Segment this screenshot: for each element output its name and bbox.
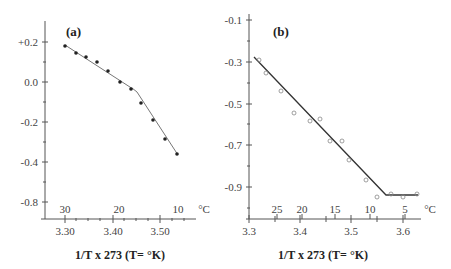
figure: +0.2 0.0 -0.2 -0.4 -0.8 3.30 3.40 3.50 — [0, 0, 451, 269]
y-tick-label: -0.3 — [225, 56, 243, 68]
celsius-unit-label: °C — [424, 203, 436, 215]
celsius-tick-label: 15 — [330, 203, 342, 215]
x-tick-label: 3.3 — [242, 225, 256, 237]
y-tick-label: 0.0 — [24, 76, 38, 88]
panel-a-x-axis — [41, 215, 196, 223]
y-tick-label: -0.1 — [225, 14, 242, 26]
y-tick-label: -0.4 — [21, 156, 39, 168]
x-tick-label: 3.4 — [293, 225, 307, 237]
panel-a-fit-lines — [65, 45, 178, 155]
panel-b: -0.1 -0.3 -0.5 -0.7 -0.9 3.3 3.4 3.5 3.6 — [225, 14, 436, 262]
y-tick-label: -0.8 — [21, 196, 39, 208]
x-tick-label: 3.5 — [344, 225, 358, 237]
celsius-tick-label: 20 — [297, 203, 309, 215]
celsius-tick-label: 5 — [402, 203, 408, 215]
x-tick-label: 3.30 — [55, 225, 75, 237]
panel-b-y-tick-labels: -0.1 -0.3 -0.5 -0.7 -0.9 — [225, 14, 243, 193]
y-tick-label: -0.2 — [21, 116, 38, 128]
panel-a-y-tick-labels: +0.2 0.0 -0.2 -0.4 -0.8 — [18, 36, 38, 208]
celsius-tick-label: 10 — [173, 203, 185, 215]
x-tick-label: 3.40 — [103, 225, 123, 237]
celsius-tick-label: 20 — [114, 203, 126, 215]
x-tick-label: 3.6 — [396, 225, 410, 237]
panel-a-celsius-tick-labels: 30 20 10 °C — [60, 203, 210, 215]
panel-b-x-tick-labels: 3.3 3.4 3.5 3.6 — [242, 225, 410, 237]
celsius-tick-label: 30 — [60, 203, 72, 215]
x-axis-title: 1/T x 273 (T= °K) — [278, 248, 368, 262]
panel-a-data-points — [63, 44, 179, 156]
y-tick-label: -0.9 — [225, 181, 243, 193]
celsius-tick-label: 10 — [365, 203, 377, 215]
y-tick-label: +0.2 — [18, 36, 38, 48]
y-tick-label: -0.7 — [225, 139, 243, 151]
panel-b-x-axis — [246, 214, 421, 223]
panel-a-x-tick-labels: 3.30 3.40 3.50 — [55, 225, 170, 237]
celsius-unit-label: °C — [198, 203, 210, 215]
panel-a: +0.2 0.0 -0.2 -0.4 -0.8 3.30 3.40 3.50 — [18, 21, 210, 262]
panel-b-y-axis — [246, 14, 252, 219]
celsius-tick-label: 25 — [272, 203, 284, 215]
x-tick-label: 3.50 — [150, 225, 170, 237]
panel-label: (b) — [273, 24, 289, 39]
panel-b-fit-lines — [254, 57, 418, 195]
panel-a-y-axis — [42, 21, 48, 219]
panel-b-celsius-tick-labels: 25 20 15 10 5 °C — [272, 203, 436, 215]
panel-label: (a) — [66, 24, 81, 39]
y-tick-label: -0.5 — [225, 98, 243, 110]
x-axis-title: 1/T x 273 (T= °K) — [75, 248, 165, 262]
panel-b-data-points — [257, 58, 419, 199]
